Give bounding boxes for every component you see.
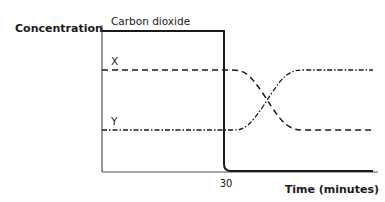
concentration-time-chart: Concentration Time (minutes) 30 Carbon d… [0,0,385,202]
y-axis-label: Concentration [15,22,103,35]
series-x [102,70,373,130]
x-tick-30: 30 [220,178,233,189]
label-carbon-dioxide: Carbon dioxide [111,15,190,27]
label-x: X [111,55,118,67]
series-carbon-dioxide [102,31,373,171]
series-y [102,70,373,130]
label-y: Y [110,115,118,127]
x-axis-label: Time (minutes) [285,183,379,196]
